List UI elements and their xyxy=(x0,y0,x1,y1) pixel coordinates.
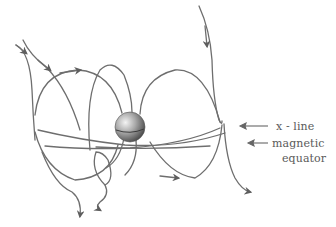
field-line-incoming-1-arrow xyxy=(16,45,26,53)
field-line-lower-right-arrow xyxy=(160,176,178,178)
field-line-outgoing-1 xyxy=(42,152,80,216)
magnetosphere-diagram xyxy=(0,0,336,227)
field-line-lower-cross-1 xyxy=(94,152,111,185)
x-line-pointer-head xyxy=(240,123,246,129)
equator-pointer-head xyxy=(248,140,254,146)
field-line-outgoing-right xyxy=(224,124,250,192)
field-line-incoming-1 xyxy=(16,45,35,140)
planet-sphere xyxy=(115,112,145,142)
magnetic-equator-label-line2: equator xyxy=(282,152,326,165)
field-line-outgoing-2 xyxy=(98,185,107,210)
field-line-top-incoming xyxy=(199,6,222,123)
x-line-label: x - line xyxy=(276,120,314,133)
field-line-right-loop xyxy=(140,70,220,122)
field-line-left-outer-loop xyxy=(35,70,122,115)
magnetic-equator-label-line1: magnetic xyxy=(272,137,325,150)
field-line-lower-right xyxy=(150,125,222,178)
field-line-incoming-2-arrow xyxy=(38,60,50,70)
